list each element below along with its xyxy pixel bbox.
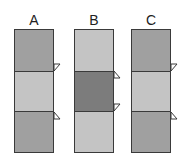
triangle-marker-icon: [114, 71, 121, 79]
triangle-marker-icon: [114, 103, 121, 111]
column-c: [131, 29, 171, 153]
segment-a-top: [15, 30, 53, 71]
segment-b-top: [75, 30, 113, 71]
segment-a-middle: [15, 71, 53, 112]
segment-b-middle: [75, 71, 113, 112]
column-b: [74, 29, 114, 153]
segment-c-top: [132, 30, 170, 71]
triangle-marker-icon: [171, 63, 178, 71]
triangle-marker-icon: [171, 112, 178, 120]
segment-a-bottom: [15, 112, 53, 152]
segment-b-bottom: [75, 112, 113, 152]
column-a: [14, 29, 54, 153]
column-label-c: C: [131, 12, 171, 28]
segment-c-bottom: [132, 112, 170, 152]
column-label-a: A: [14, 12, 54, 28]
segment-c-middle: [132, 71, 170, 112]
triangle-marker-icon: [54, 63, 61, 71]
triangle-marker-icon: [54, 112, 61, 120]
column-label-b: B: [74, 12, 114, 28]
